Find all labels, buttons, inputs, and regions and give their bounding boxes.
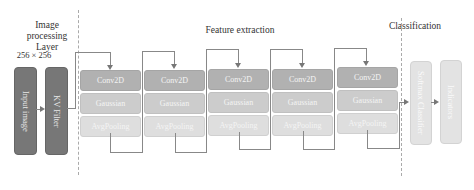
feature-block-5: Conv2D Gaussian AvgPooling	[337, 67, 398, 136]
image-processing-title: Image processing Layer	[14, 20, 80, 53]
connector	[110, 133, 111, 152]
kv-filter-label: KV Filter	[52, 95, 62, 128]
feature-extraction-title: Feature extraction	[200, 25, 280, 36]
connector	[206, 49, 239, 50]
feature-block-2: Conv2D Gaussian AvgPooling	[144, 70, 205, 139]
connector	[110, 152, 143, 153]
indicators-box: Indicators	[440, 60, 462, 144]
connector	[110, 52, 111, 66]
input-image-label: Input image	[21, 91, 31, 132]
kv-filter-box: KV Filter	[45, 67, 68, 155]
softmax-classifier-box: Softmax Classifier	[410, 61, 432, 145]
softmax-classifier-label: Softmax Classifier	[416, 71, 426, 135]
feature-block-4: Conv2D Gaussian AvgPooling	[272, 69, 333, 138]
title-line-1: Image processing	[14, 20, 80, 42]
gaussian-layer: Gaussian	[144, 93, 205, 114]
feature-block-1: Conv2D Gaussian AvgPooling	[80, 70, 141, 139]
input-image-box: Input image	[14, 67, 37, 155]
feature-block-3: Conv2D Gaussian AvgPooling	[208, 69, 269, 138]
indicators-label: Indicators	[446, 85, 456, 119]
connector	[334, 48, 335, 150]
connector	[366, 48, 367, 62]
connector	[75, 52, 111, 53]
arrow-right-icon	[434, 99, 439, 105]
gaussian-layer: Gaussian	[337, 90, 398, 111]
connector	[367, 148, 400, 149]
connector	[238, 49, 239, 64]
connector	[270, 49, 303, 50]
arrow-down-icon	[299, 63, 305, 68]
gaussian-layer: Gaussian	[80, 93, 141, 114]
connector	[399, 102, 400, 149]
arrow-down-icon	[235, 63, 241, 68]
conv2d-layer: Conv2D	[272, 69, 333, 90]
connector	[67, 108, 75, 109]
connector	[75, 52, 76, 109]
connector	[302, 49, 303, 64]
separator-right	[401, 18, 402, 176]
conv2d-layer: Conv2D	[144, 70, 205, 91]
connector	[142, 51, 143, 153]
conv2d-layer: Conv2D	[208, 69, 269, 90]
connector	[303, 149, 335, 150]
connector	[206, 49, 207, 153]
connector	[175, 152, 207, 153]
input-size-label: 256 × 256	[14, 50, 54, 61]
gaussian-layer: Gaussian	[272, 92, 333, 113]
classification-title: Classification	[380, 21, 450, 32]
gaussian-layer: Gaussian	[208, 92, 269, 113]
connector	[142, 51, 175, 52]
connector	[239, 149, 271, 150]
connector	[270, 49, 271, 150]
connector	[334, 48, 367, 49]
arrow-down-icon	[171, 64, 177, 69]
connector	[303, 131, 304, 149]
arrow-right-icon	[404, 99, 409, 105]
connector	[174, 51, 175, 65]
arrow-down-icon	[363, 61, 369, 66]
connector	[239, 132, 240, 149]
connector	[367, 130, 368, 148]
conv2d-layer: Conv2D	[80, 70, 141, 91]
separator-left	[78, 10, 79, 175]
conv2d-layer: Conv2D	[337, 67, 398, 88]
connector	[175, 133, 176, 152]
